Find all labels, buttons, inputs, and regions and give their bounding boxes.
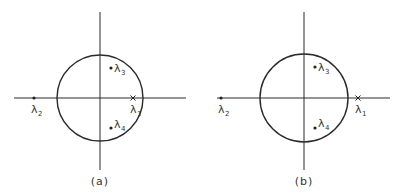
- figure-caption: (b): [295, 175, 314, 188]
- eigenvalue-subscript: 3: [325, 68, 329, 76]
- eigenvalue-lambda-1: λ1: [355, 96, 366, 119]
- eigenvalue-subscript: 3: [121, 69, 125, 77]
- eigenvalue-diagrams: λ1λ2λ3λ4(a)λ1λ2λ3λ4(b): [0, 0, 401, 194]
- eigenvalue-label: λ: [31, 103, 38, 116]
- dot-marker-icon: [219, 96, 222, 99]
- eigenvalue-label: λ: [355, 103, 362, 116]
- eigenvalue-label: λ: [114, 118, 121, 131]
- eigenvalue-subscript: 4: [121, 125, 126, 133]
- dot-marker-icon: [109, 126, 112, 129]
- eigenvalue-subscript: 1: [362, 110, 366, 118]
- eigenvalue-lambda-3: λ3: [313, 61, 329, 76]
- eigenvalue-subscript: 1: [137, 110, 141, 118]
- eigenvalue-label: λ: [114, 62, 121, 75]
- eigenvalue-lambda-3: λ3: [109, 62, 125, 77]
- eigenvalue-lambda-4: λ4: [109, 118, 126, 133]
- dot-marker-icon: [32, 96, 35, 99]
- figure-a: λ1λ2λ3λ4(a): [14, 12, 186, 188]
- eigenvalue-label: λ: [218, 103, 225, 116]
- eigenvalue-label: λ: [130, 103, 137, 116]
- eigenvalue-lambda-1: λ1: [130, 96, 141, 119]
- eigenvalue-subscript: 2: [38, 110, 42, 118]
- figure-b: λ1λ2λ3λ4(b): [217, 12, 390, 188]
- eigenvalue-lambda-2: λ2: [31, 96, 42, 118]
- eigenvalue-label: λ: [318, 61, 325, 74]
- eigenvalue-subscript: 2: [225, 110, 229, 118]
- eigenvalue-lambda-2: λ2: [218, 96, 229, 118]
- figure-caption: (a): [91, 175, 109, 188]
- eigenvalue-subscript: 4: [325, 124, 330, 132]
- dot-marker-icon: [109, 66, 112, 69]
- dot-marker-icon: [313, 65, 316, 68]
- eigenvalue-lambda-4: λ4: [313, 117, 330, 132]
- eigenvalue-label: λ: [318, 117, 325, 130]
- dot-marker-icon: [313, 126, 316, 129]
